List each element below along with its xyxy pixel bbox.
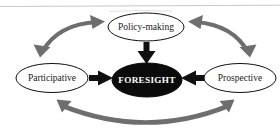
arrowhead-toward-policy-left — [90, 15, 105, 29]
node-policy-making-label: Policy-making — [118, 22, 174, 32]
curve-path-participative-policy — [42, 22, 97, 52]
arrowhead-toward-policy-right — [188, 15, 203, 29]
diagram-canvas: Policy-making Participative FORESIGHT Pr… — [0, 0, 280, 137]
curved-arrow-participative-policy — [34, 15, 106, 58]
curved-arrow-policy-prospective — [188, 15, 257, 58]
foresight-diagram: Policy-making Participative FORESIGHT Pr… — [0, 0, 280, 137]
curved-arrow-participative-prospective — [57, 100, 235, 123]
node-prospective[interactable]: Prospective — [204, 64, 276, 93]
node-foresight[interactable]: FORESIGHT — [112, 63, 182, 97]
node-foresight-label: FORESIGHT — [118, 75, 175, 85]
scan-artifact-lines — [0, 5, 280, 11]
curve-path-participative-prospective — [63, 106, 228, 123]
arrow-shaft-participative-right — [89, 75, 99, 81]
scan-line-top — [0, 5, 280, 6]
solid-arrow-policy-to-foresight — [138, 42, 156, 64]
node-participative[interactable]: Participative — [16, 64, 88, 93]
solid-arrow-prospective-to-foresight — [181, 71, 205, 86]
solid-arrow-participative-to-foresight — [89, 71, 113, 86]
node-prospective-label: Prospective — [218, 73, 262, 83]
node-policy-making[interactable]: Policy-making — [108, 13, 184, 41]
arrowhead-policy-down — [138, 51, 156, 64]
arrowhead-prospective-left — [181, 71, 196, 86]
scan-line-arc — [110, 10, 172, 11]
node-participative-label: Participative — [28, 73, 76, 83]
arrowhead-participative-right — [98, 71, 113, 86]
